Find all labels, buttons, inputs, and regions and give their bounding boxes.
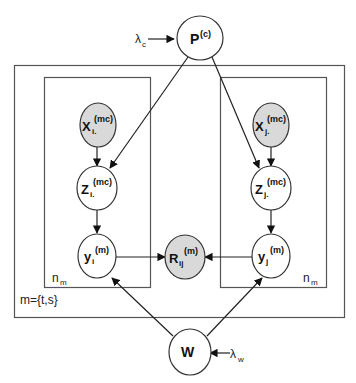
svg-text:Z: Z bbox=[81, 182, 89, 197]
svg-text:W: W bbox=[181, 344, 195, 360]
svg-text:y: y bbox=[258, 249, 266, 264]
svg-text:(m): (m) bbox=[184, 246, 198, 256]
node-z-j: Z j. (mc) bbox=[251, 166, 291, 210]
svg-text:(mc): (mc) bbox=[267, 177, 286, 187]
svg-text:X: X bbox=[82, 119, 91, 134]
hyperparameter-lambda-c: λ c bbox=[135, 32, 146, 49]
svg-text:n: n bbox=[52, 271, 59, 285]
svg-text:λ: λ bbox=[230, 347, 236, 361]
svg-text:X: X bbox=[255, 119, 264, 134]
node-w: W bbox=[169, 329, 211, 375]
node-p: P (c) bbox=[177, 16, 223, 60]
node-z-i: Z i. (mc) bbox=[77, 166, 117, 210]
node-x-i: X i. (mc) bbox=[80, 103, 116, 147]
svg-text:(m): (m) bbox=[95, 245, 109, 255]
edge-w-to-yi bbox=[112, 278, 173, 336]
svg-text:λ: λ bbox=[135, 32, 141, 46]
node-y-j: y j (m) bbox=[252, 234, 290, 278]
outer-plate-label: m={t,s} bbox=[20, 293, 58, 307]
inner-plate-right-label: n m bbox=[303, 271, 318, 287]
svg-text:(m): (m) bbox=[270, 245, 284, 255]
svg-text:n: n bbox=[303, 271, 310, 285]
svg-text:(c): (c) bbox=[200, 29, 211, 39]
svg-text:ij: ij bbox=[179, 259, 183, 268]
svg-text:P: P bbox=[190, 31, 199, 47]
svg-text:i: i bbox=[92, 257, 94, 266]
inner-plate-left-label: n m bbox=[52, 271, 67, 287]
svg-text:c: c bbox=[142, 40, 146, 49]
svg-text:i.: i. bbox=[92, 127, 96, 136]
svg-text:j.: j. bbox=[264, 127, 269, 136]
svg-text:i.: i. bbox=[90, 190, 94, 199]
node-r-ij: R ij (m) bbox=[165, 235, 205, 279]
svg-text:j.: j. bbox=[263, 190, 268, 199]
edge-w-to-yj bbox=[207, 278, 262, 336]
node-x-j: X j. (mc) bbox=[253, 103, 289, 147]
edge-p-to-zj bbox=[212, 57, 259, 168]
node-y-i: y i (m) bbox=[78, 234, 116, 278]
edge-p-to-zi bbox=[110, 57, 188, 168]
svg-text:(mc): (mc) bbox=[94, 114, 113, 124]
svg-text:y: y bbox=[84, 249, 92, 264]
svg-text:j: j bbox=[265, 257, 268, 266]
graphical-model-diagram: n m n m m={t,s} P (c) X i. (mc) X j. (m bbox=[0, 0, 356, 383]
svg-text:w: w bbox=[237, 355, 244, 364]
svg-text:(mc): (mc) bbox=[267, 114, 286, 124]
hyperparameter-lambda-w: λ w bbox=[230, 347, 244, 364]
svg-text:Z: Z bbox=[255, 182, 263, 197]
svg-text:(mc): (mc) bbox=[93, 177, 112, 187]
svg-text:m: m bbox=[311, 278, 318, 287]
svg-text:R: R bbox=[169, 251, 179, 266]
svg-text:m: m bbox=[60, 278, 67, 287]
